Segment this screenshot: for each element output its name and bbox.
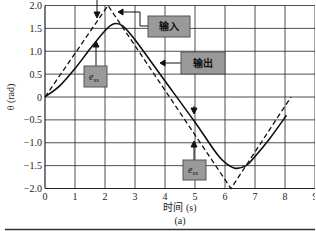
x-tick-label: 8 xyxy=(283,191,288,202)
input-label: 输入 xyxy=(159,20,179,32)
x-tick-label: 9 xyxy=(313,191,316,202)
output-label: 输出 xyxy=(193,57,213,69)
x-tick-label: 2 xyxy=(103,191,108,202)
ess-annotation-left: ess xyxy=(84,66,107,87)
x-axis-ticks: 0123456789 xyxy=(43,191,316,202)
x-tick-label: 5 xyxy=(193,191,198,202)
y-tick-label: 0.5 xyxy=(30,69,43,80)
x-tick-label: 7 xyxy=(253,191,258,202)
ess-sub: ss xyxy=(192,169,198,177)
x-tick-label: 4 xyxy=(163,191,168,202)
output-annotation: 输出 xyxy=(181,52,225,74)
y-tick-label: −2.0 xyxy=(24,183,42,194)
x-tick-label: 6 xyxy=(223,191,228,202)
y-tick-label: 2.0 xyxy=(30,0,43,11)
y-axis-label: θ (rad) xyxy=(5,84,17,111)
y-axis-ticks: 2.01.51.00.50−0.5−1.0−1.5−2.0 xyxy=(24,0,42,194)
chart: 2.01.51.00.50−0.5−1.0−1.5−2.0 0123456789… xyxy=(0,0,315,231)
x-axis-label: 时间 (s) xyxy=(163,201,196,214)
y-tick-label: −1.0 xyxy=(24,137,42,148)
y-tick-label: −0.5 xyxy=(24,114,42,125)
y-tick-label: 1.5 xyxy=(30,23,43,34)
input-annotation: 输入 xyxy=(148,16,190,37)
y-tick-label: −1.5 xyxy=(24,160,42,171)
y-tick-label: 1.0 xyxy=(30,46,43,57)
figure-caption: (a) xyxy=(174,215,185,227)
x-tick-label: 1 xyxy=(73,191,78,202)
x-tick-label: 3 xyxy=(133,191,138,202)
ess-sub: ss xyxy=(93,76,99,84)
ess-annotation-right: ess xyxy=(183,160,206,180)
x-tick-label: 0 xyxy=(43,191,48,202)
output-series-line xyxy=(45,23,287,168)
y-tick-label: 0 xyxy=(37,92,42,103)
